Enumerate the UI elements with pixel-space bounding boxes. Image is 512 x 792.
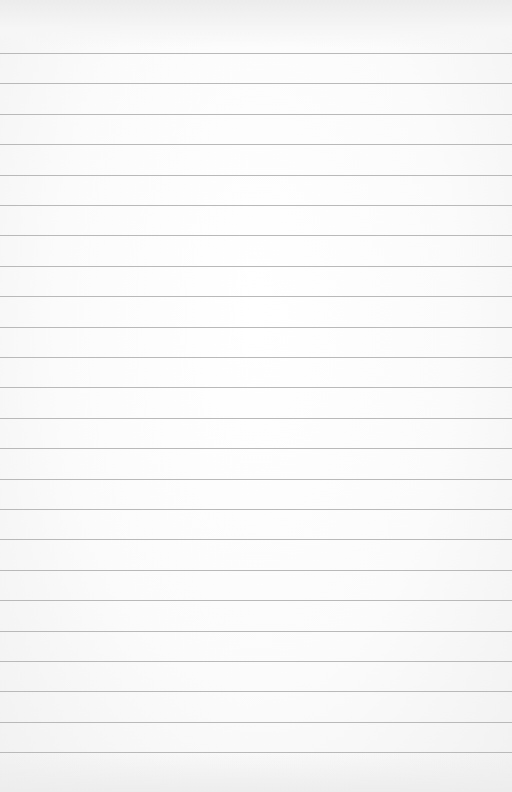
- ruled-line: [0, 296, 512, 297]
- ruled-line: [0, 53, 512, 54]
- ruled-line: [0, 600, 512, 601]
- ruled-line: [0, 387, 512, 388]
- lined-paper: [0, 0, 512, 792]
- ruled-line: [0, 144, 512, 145]
- ruled-line: [0, 722, 512, 723]
- ruled-line: [0, 205, 512, 206]
- ruled-line: [0, 448, 512, 449]
- ruled-line: [0, 83, 512, 84]
- ruled-line: [0, 570, 512, 571]
- ruled-line: [0, 509, 512, 510]
- ruled-line: [0, 418, 512, 419]
- ruled-line: [0, 479, 512, 480]
- ruled-line: [0, 631, 512, 632]
- paper-bottom-edge: [0, 752, 512, 792]
- ruled-line: [0, 114, 512, 115]
- ruled-line: [0, 539, 512, 540]
- ruled-line: [0, 266, 512, 267]
- ruled-line: [0, 235, 512, 236]
- ruled-line: [0, 327, 512, 328]
- paper-top-edge: [0, 0, 512, 48]
- ruled-line: [0, 175, 512, 176]
- ruled-line: [0, 691, 512, 692]
- ruled-line: [0, 661, 512, 662]
- ruled-line: [0, 357, 512, 358]
